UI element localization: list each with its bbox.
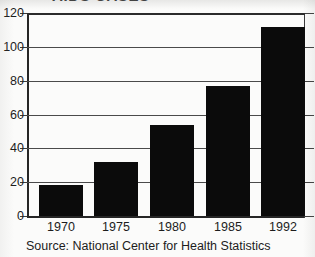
bar-chart-figure: AIDS CASES 020406080100120 1970197519801…	[0, 0, 315, 257]
y-tick-mark-right-20	[305, 182, 314, 183]
bar-1975	[94, 162, 138, 216]
y-tick-mark-right-60	[305, 115, 314, 116]
x-tick-label-1970: 1970	[33, 221, 89, 234]
y-tick-label-40: 40	[0, 142, 24, 155]
bar-1980	[150, 125, 194, 216]
bar-1970	[39, 185, 83, 216]
bar-1992	[261, 27, 305, 216]
x-axis-tick-labels: 19701975198019851992	[27, 221, 305, 238]
bar-1985	[206, 86, 250, 216]
x-tick-label-1985: 1985	[200, 221, 256, 234]
y-tick-mark-right-120	[305, 13, 314, 14]
y-tick-label-120: 120	[0, 7, 24, 20]
x-tick-label-1992: 1992	[255, 221, 311, 234]
y-tick-mark-right-100	[305, 47, 314, 48]
source-caption: Source: National Center for Health Stati…	[26, 239, 271, 253]
chart-title-cropped: AIDS CASES	[52, 0, 228, 5]
y-tick-mark-right-0	[305, 216, 314, 217]
y-tick-label-20: 20	[0, 176, 24, 189]
y-tick-label-100: 100	[0, 41, 24, 54]
y-tick-label-80: 80	[0, 75, 24, 88]
y-tick-label-60: 60	[0, 109, 24, 122]
bar-series	[27, 13, 305, 218]
y-tick-mark-right-80	[305, 81, 314, 82]
y-axis-tick-labels: 020406080100120	[0, 0, 24, 257]
y-tick-mark-right-40	[305, 148, 314, 149]
chart-title-text: AIDS CASES	[52, 0, 150, 4]
plot-area	[27, 13, 305, 218]
x-tick-label-1980: 1980	[144, 221, 200, 234]
y-tick-label-0: 0	[0, 210, 24, 223]
x-tick-label-1975: 1975	[88, 221, 144, 234]
